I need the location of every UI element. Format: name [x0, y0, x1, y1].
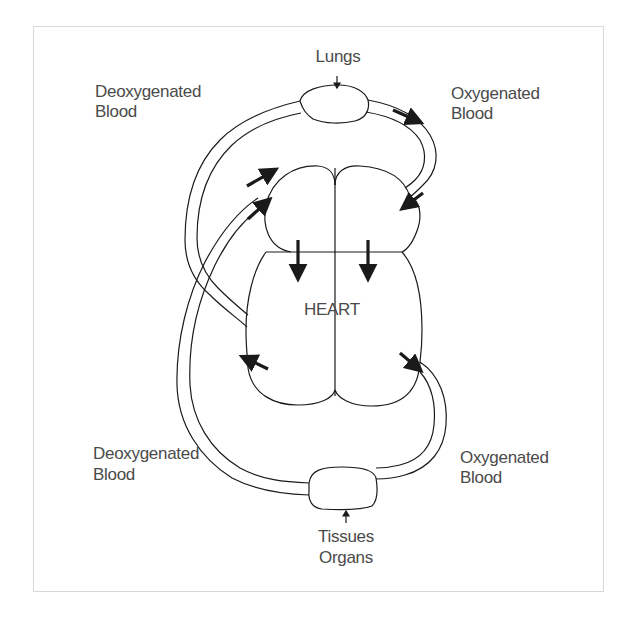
bottom-right-label-line1: Oxygenated: [460, 448, 549, 468]
arrow-right-ventricle-out: [243, 357, 268, 369]
top-left-label-line2: Blood: [95, 102, 137, 122]
arrow-to-lungs: [247, 170, 275, 186]
tissues-organs-node: [309, 467, 377, 510]
pulmonary-artery-vessel: [185, 101, 301, 327]
arrow-left-ventricle-out: [400, 353, 420, 370]
organs-label: Organs: [310, 548, 382, 568]
bottom-right-label-line2: Blood: [460, 468, 502, 488]
tissues-label: Tissues: [310, 527, 382, 547]
lungs-label: Lungs: [306, 47, 370, 67]
top-left-label-line1: Deoxygenated: [95, 82, 201, 102]
top-right-label-line2: Blood: [451, 104, 493, 124]
heart-outline: [246, 166, 422, 406]
bottom-left-label-line2: Blood: [93, 465, 135, 485]
aorta-vessel: [376, 362, 446, 479]
heart-label: HEART: [304, 300, 360, 320]
top-right-label-line1: Oxygenated: [451, 84, 540, 104]
bottom-left-label-line1: Deoxygenated: [93, 444, 199, 464]
arrow-from-lungs: [393, 110, 420, 122]
lungs-node: [300, 85, 369, 123]
